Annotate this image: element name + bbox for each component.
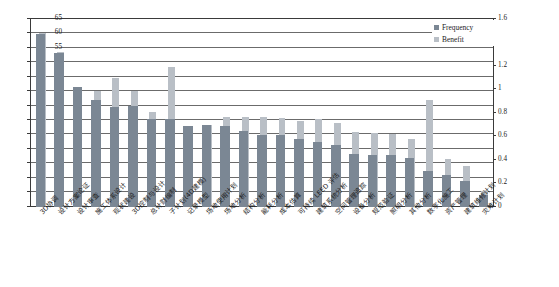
y2-axis-tick-mark — [493, 65, 496, 66]
legend-label-benefit: Benefit — [442, 35, 464, 44]
bar-group — [456, 18, 474, 207]
y-axis-tick-mark — [27, 177, 30, 178]
bar-frequency — [36, 34, 46, 207]
y-axis-tick-mark — [27, 61, 30, 62]
bar-group — [234, 18, 252, 207]
y-axis-tick-mark — [27, 90, 30, 91]
bar-group — [87, 18, 105, 207]
y2-axis-tick-label: 1.2 — [498, 61, 532, 69]
y-axis-tick-mark — [27, 191, 30, 192]
bar-group — [382, 18, 400, 207]
bar-group — [124, 18, 142, 207]
y2-axis-tick-mark — [493, 135, 496, 136]
legend-swatch-benefit-icon — [434, 37, 439, 42]
chart-container: 05101520253035404550556065 00.20.40.60.8… — [0, 0, 559, 287]
chart-legend: Frequency Benefit — [432, 20, 510, 46]
bar-group — [400, 18, 418, 207]
legend-item-benefit: Benefit — [434, 33, 508, 45]
bar-group — [419, 18, 437, 207]
y2-axis-tick-label: 0.8 — [498, 108, 532, 116]
y-axis-tick-mark — [27, 148, 30, 149]
bar-group — [50, 18, 68, 207]
legend-item-frequency: Frequency — [434, 21, 508, 33]
y2-axis-tick-mark — [493, 159, 496, 160]
y2-axis-tick-label: 0.4 — [498, 155, 532, 163]
y2-axis-tick-label: 0.6 — [498, 131, 532, 139]
y-axis-tick-mark — [27, 32, 30, 33]
y-axis-tick-mark — [27, 47, 30, 48]
y2-axis-tick-mark — [493, 88, 496, 89]
bar-frequency — [54, 53, 64, 207]
y-axis-tick-mark — [27, 133, 30, 134]
y-axis-tick-mark — [27, 105, 30, 106]
y2-axis-tick-label: 0.2 — [498, 178, 532, 186]
bars-layer — [31, 18, 492, 207]
bar-group — [161, 18, 179, 207]
bar-group — [363, 18, 381, 207]
bar-group — [290, 18, 308, 207]
y2-axis-tick-mark — [493, 18, 496, 19]
y-axis-tick-mark — [27, 76, 30, 77]
y2-axis-tick-label: 1 — [498, 84, 532, 92]
bar-group — [437, 18, 455, 207]
x-axis-labels: 3D协调设计方案论证设计审查施工体系设计现状建设3D控制与设计总计财编制子计划(… — [0, 207, 559, 287]
legend-label-frequency: Frequency — [442, 23, 473, 32]
y-axis-tick-mark — [27, 18, 30, 19]
bar-group — [271, 18, 289, 207]
bar-group — [31, 18, 49, 207]
bar-group — [253, 18, 271, 207]
y2-axis-tick-mark — [493, 112, 496, 113]
y-axis-tick-mark — [27, 162, 30, 163]
y-axis-tick-mark — [27, 119, 30, 120]
legend-swatch-frequency-icon — [434, 25, 439, 30]
